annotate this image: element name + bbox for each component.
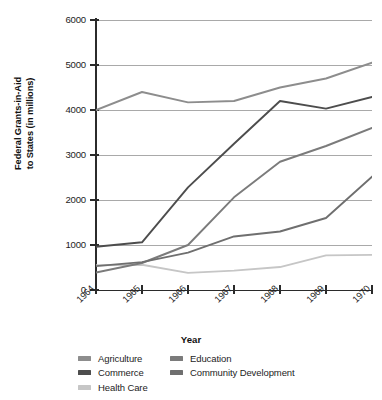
legend-label: Community Development (190, 367, 295, 378)
y-tick: 6000 (34, 14, 86, 26)
y-tick-label: 5000 (38, 59, 86, 70)
y-tick: 3000 (34, 149, 86, 161)
y-tick: 4000 (34, 104, 86, 116)
legend-column-left: AgricultureCommerceHealth Care (78, 351, 148, 395)
y-tick-label: 3000 (38, 149, 86, 160)
y-tick: 5000 (34, 59, 86, 71)
legend-swatch-icon (78, 370, 91, 375)
legend-item-community-development[interactable]: Community Development (170, 366, 295, 381)
y-tick-label: 2000 (38, 194, 86, 205)
series-lines (96, 20, 372, 290)
series-line-commerce (96, 97, 372, 247)
series-line-agriculture (96, 63, 372, 110)
y-tick: 2000 (34, 194, 86, 206)
y-tick-label: 1000 (38, 239, 86, 250)
series-line-community-development (96, 177, 372, 267)
legend-label: Health Care (98, 382, 148, 393)
series-line-education (96, 128, 372, 272)
y-tick: 1000 (34, 239, 86, 251)
legend-item-agriculture[interactable]: Agriculture (78, 351, 148, 366)
line-chart: Federal Grants-in-Aid to States (in mill… (0, 0, 382, 400)
x-axis-title: Year (0, 334, 382, 345)
y-tick-label: 6000 (38, 14, 86, 25)
legend-item-commerce[interactable]: Commerce (78, 366, 148, 381)
legend-item-education[interactable]: Education (170, 351, 295, 366)
legend-swatch-icon (170, 370, 183, 375)
legend-swatch-icon (78, 385, 91, 390)
legend-swatch-icon (78, 356, 91, 361)
y-axis-title: Federal Grants-in-Aid to States (in mill… (13, 59, 36, 189)
y-tick-label: 4000 (38, 104, 86, 115)
legend-label: Education (190, 353, 231, 364)
legend-label: Agriculture (98, 353, 142, 364)
legend-label: Commerce (98, 367, 144, 378)
legend-swatch-icon (170, 356, 183, 361)
legend-column-right: EducationCommunity Development (170, 351, 295, 380)
legend-item-health-care[interactable]: Health Care (78, 380, 148, 395)
